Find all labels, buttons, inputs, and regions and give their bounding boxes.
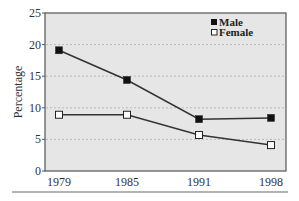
x-tick-label: 1991: [187, 175, 211, 189]
legend-male-marker-icon: [211, 19, 217, 25]
x-axis-ticks: 1979198519911998: [47, 175, 283, 189]
data-point-male: [56, 47, 63, 54]
data-point-female: [56, 111, 63, 118]
y-tick-label: 5: [35, 132, 41, 146]
data-point-male: [268, 114, 275, 121]
y-tick-label: 25: [29, 6, 41, 20]
line-chart: 0510152025 1979198519911998 Percentage M…: [0, 0, 299, 201]
y-tick-label: 15: [29, 69, 41, 83]
y-axis-ticks: 0510152025: [29, 6, 45, 178]
legend-female-marker-icon: [212, 30, 218, 36]
x-tick-label: 1998: [259, 175, 283, 189]
y-tick-label: 0: [35, 164, 41, 178]
legend-female-label: Female: [219, 26, 253, 38]
data-point-female: [268, 142, 275, 149]
data-point-male: [196, 116, 203, 123]
y-axis-label: Percentage: [11, 66, 25, 119]
y-tick-label: 20: [29, 38, 41, 52]
y-tick-label: 10: [29, 101, 41, 115]
x-tick-label: 1979: [47, 175, 71, 189]
data-point-female: [124, 111, 131, 118]
data-point-female: [196, 131, 203, 138]
data-point-male: [124, 76, 131, 83]
x-tick-label: 1985: [115, 175, 139, 189]
